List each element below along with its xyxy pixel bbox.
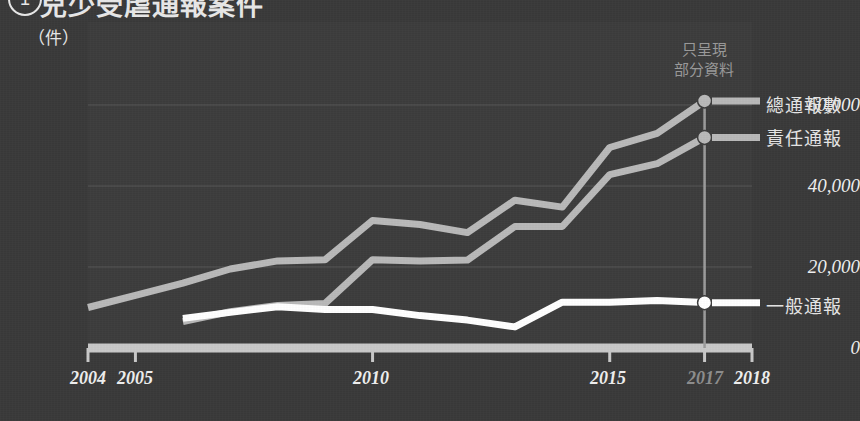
endpoint-dot-1 (698, 130, 712, 144)
endpoint-dot-2 (698, 296, 712, 310)
data-series-group (88, 101, 705, 327)
chart-page: 1 兒少受虐通報案件 （件） 60,000 40,000 20,000 0 20… (0, 0, 860, 421)
endpoint-dot-0 (698, 94, 712, 108)
legend-swatches (712, 101, 760, 303)
line-chart (0, 0, 860, 421)
series-line-0 (88, 101, 705, 308)
gridlines (88, 105, 752, 267)
